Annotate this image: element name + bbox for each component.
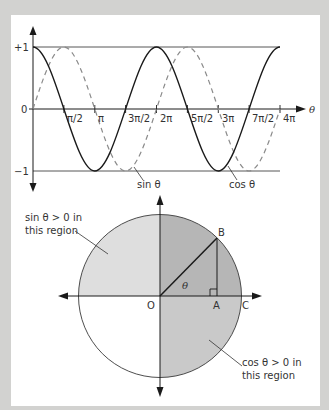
figure-svg: +1 0 −1 θ π/2 π 3π/2 2π 5π/2 3π 7π/2 4π … xyxy=(0,0,329,410)
angle-theta-label: θ xyxy=(182,280,188,291)
tick-label: 7π/2 xyxy=(252,113,274,124)
tick-label: π/2 xyxy=(67,113,83,124)
y-label-zero: 0 xyxy=(21,104,27,115)
x-axis-arrow-icon xyxy=(296,106,306,113)
sin-legend-label: sin θ xyxy=(137,179,161,190)
tick-label: 3π/2 xyxy=(128,113,150,124)
tick-label: π xyxy=(98,113,104,124)
point-o-label: O xyxy=(147,300,155,311)
unit-circle-diagram: O A B C θ sin θ > 0 in this region cos θ… xyxy=(25,195,302,397)
up-arrow-icon xyxy=(157,195,164,205)
sin-region-note-line2: this region xyxy=(25,225,78,236)
tick-label: 2π xyxy=(160,113,172,124)
tick-label: 3π xyxy=(222,113,234,124)
left-arrow-icon xyxy=(58,293,68,300)
y-label-plus-one: +1 xyxy=(14,42,29,53)
y-axis-up-arrow-icon xyxy=(30,26,37,35)
x-axis-label: θ xyxy=(309,104,315,115)
point-c-label: C xyxy=(242,300,249,311)
cos-region-note-line2: this region xyxy=(242,370,295,381)
y-label-minus-one: −1 xyxy=(14,166,29,177)
cos-legend-label: cos θ xyxy=(229,179,255,190)
y-axis-down-arrow-icon xyxy=(30,183,37,192)
cos-region-note-line1: cos θ > 0 in xyxy=(242,357,302,368)
tick-label: 5π/2 xyxy=(191,113,213,124)
point-b-label: B xyxy=(218,227,225,238)
quadrant-top-left xyxy=(79,214,161,296)
quadrant-bottom-right xyxy=(160,296,242,378)
cos-pointer-line xyxy=(228,166,237,180)
tick-label: 4π xyxy=(283,113,295,124)
point-a-label: A xyxy=(213,300,220,311)
sin-region-note-line1: sin θ > 0 in xyxy=(25,212,82,223)
sin-cos-graph: +1 0 −1 θ π/2 π 3π/2 2π 5π/2 3π 7π/2 4π … xyxy=(14,26,315,192)
right-arrow-icon xyxy=(252,293,262,300)
down-arrow-icon xyxy=(157,387,164,397)
